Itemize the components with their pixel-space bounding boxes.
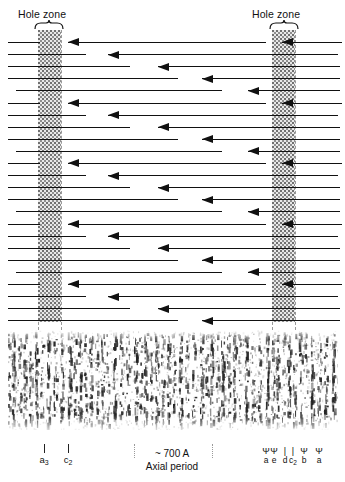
arrowhead-left-icon: [248, 208, 259, 216]
molecule-line-segment: [8, 199, 178, 200]
molecule-line-segment: [202, 320, 340, 321]
molecule-line-segment: [8, 78, 178, 79]
axial-period-caption: ~ 700 A Axial period: [126, 447, 218, 473]
molecule-line-segment: [68, 163, 266, 164]
arrowhead-left-icon: [158, 123, 169, 131]
molecule-line-segment: [8, 260, 178, 261]
arrowhead-left-icon: [202, 75, 213, 83]
molecule-line-segment: [108, 236, 338, 237]
molecule-line-segment: [8, 175, 86, 176]
band-marker-a: Ψa: [312, 447, 326, 465]
hole-zone-label-right: Hole zone: [252, 8, 300, 20]
arrowhead-left-icon: [248, 147, 259, 155]
molecule-line-segment: [8, 115, 86, 116]
hole-zone-label-left: Hole zone: [18, 8, 66, 20]
molecule-line-segment: [8, 139, 178, 140]
molecule-line-segment: [158, 127, 340, 128]
molecule-line-segment: [8, 308, 130, 309]
band-tick-c2: c2: [56, 444, 80, 466]
arrowhead-left-icon: [248, 268, 259, 276]
arrowhead-left-icon: [68, 99, 79, 107]
molecule-line-segment: [68, 224, 266, 225]
molecule-line-segment: [68, 284, 266, 285]
arrowhead-left-icon: [108, 293, 119, 301]
molecule-line-segment: [158, 66, 340, 67]
arrowhead-left-icon: [202, 317, 213, 325]
molecule-line-segment: [16, 151, 222, 152]
arrowhead-left-icon: [108, 111, 119, 119]
axial-period-text: Axial period: [146, 461, 198, 472]
molecule-line-segment: [8, 284, 40, 285]
hole-zone-brace-left: [34, 20, 64, 30]
molecule-line-segment: [158, 187, 340, 188]
band-tick-label: a3: [32, 455, 56, 466]
molecule-line-segment: [108, 54, 338, 55]
arrowhead-left-icon: [282, 38, 293, 46]
band-tick-a3: a3: [32, 444, 56, 466]
molecule-line-segment: [202, 260, 340, 261]
arrowhead-left-icon: [282, 220, 293, 228]
arrowhead-left-icon: [282, 280, 293, 288]
molecule-line-segment: [202, 78, 340, 79]
molecule-line-segment: [158, 308, 340, 309]
molecule-line-segment: [8, 127, 130, 128]
molecule-line-segment: [8, 54, 86, 55]
molecule-line-segment: [248, 272, 340, 273]
band-tick-label: c2: [56, 455, 80, 466]
arrowhead-left-icon: [108, 232, 119, 240]
molecule-line-segment: [8, 42, 40, 43]
molecule-line-segment: [202, 199, 340, 200]
guide-line-right-b: [295, 30, 296, 330]
arrowhead-left-icon: [68, 220, 79, 228]
molecule-line-segment: [8, 103, 40, 104]
hole-zone-brace-right: [269, 20, 299, 30]
band-marker-b: Ψb: [297, 447, 311, 465]
arrowhead-left-icon: [158, 184, 169, 192]
electron-micrograph-band: [8, 330, 338, 430]
molecule-line-segment: [16, 90, 222, 91]
arrowhead-left-icon: [202, 256, 213, 264]
molecule-line-segment: [248, 211, 340, 212]
arrowhead-left-icon: [108, 172, 119, 180]
arrowhead-left-icon: [248, 87, 259, 95]
arrowhead-left-icon: [202, 135, 213, 143]
molecule-line-segment: [68, 103, 266, 104]
molecule-line-segment: [8, 296, 86, 297]
arrowhead-left-icon: [202, 196, 213, 204]
arrowhead-left-icon: [68, 159, 79, 167]
molecule-line-segment: [8, 224, 40, 225]
arrowhead-left-icon: [282, 99, 293, 107]
arrowhead-left-icon: [108, 51, 119, 59]
axial-period-value: ~ 700 A: [155, 448, 189, 459]
arrowhead-left-icon: [158, 63, 169, 71]
molecule-line-segment: [248, 151, 340, 152]
molecule-line-segment: [108, 296, 338, 297]
band-marker-label: a: [312, 456, 326, 465]
arrowhead-left-icon: [68, 280, 79, 288]
molecule-line-segment: [8, 66, 130, 67]
tick-mark-icon: [44, 444, 45, 453]
molecule-line-segment: [8, 187, 130, 188]
band-marker-label: b: [297, 456, 311, 465]
tick-mark-icon: [68, 444, 69, 453]
arrowhead-left-icon: [68, 38, 79, 46]
molecule-line-segment: [8, 320, 178, 321]
molecule-line-segment: [16, 211, 222, 212]
molecule-line-segment: [108, 175, 338, 176]
molecule-line-segment: [8, 248, 130, 249]
molecule-line-segment: [8, 163, 40, 164]
molecule-line-segment: [8, 236, 86, 237]
molecule-line-segment: [108, 115, 338, 116]
collagen-fibril-figure: Hole zone Hole zone a3c2 ~ 700 A Axial p…: [0, 0, 345, 482]
molecule-line-segment: [68, 42, 266, 43]
molecule-line-segment: [202, 139, 340, 140]
arrowhead-left-icon: [158, 244, 169, 252]
arrowhead-left-icon: [158, 305, 169, 313]
arrowhead-left-icon: [282, 159, 293, 167]
molecule-line-segment: [16, 272, 222, 273]
guide-line-left-b: [61, 30, 62, 330]
molecule-line-segment: [158, 248, 340, 249]
molecule-line-segment: [248, 90, 340, 91]
